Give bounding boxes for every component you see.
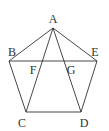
segments: [9, 28, 97, 112]
label-e: E: [91, 45, 98, 59]
label-f: F: [30, 63, 37, 77]
label-d: D: [80, 116, 89, 130]
label-c: C: [18, 116, 26, 130]
label-b: B: [8, 45, 16, 59]
segment-bc: [9, 61, 26, 112]
label-a: A: [49, 12, 58, 26]
label-g: G: [67, 63, 76, 77]
segment-de: [81, 61, 97, 112]
pentagon-diagram: A B C D E F G: [0, 0, 109, 131]
